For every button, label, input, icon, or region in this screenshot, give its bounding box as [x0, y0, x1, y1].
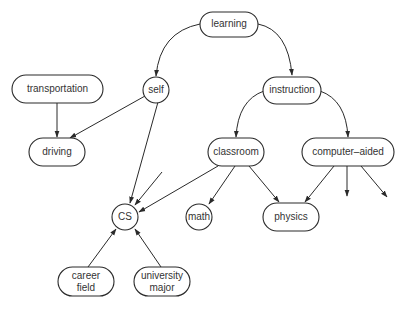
edge-self-cs [130, 102, 158, 203]
edge-university-major-cs [135, 229, 161, 267]
edge-instruction-classroom [236, 91, 264, 137]
node-self: self [143, 77, 169, 103]
node-label: self [148, 84, 164, 95]
node-computer-aided: computer–aided [302, 138, 394, 166]
node-university-major: university major [134, 267, 190, 296]
node-driving: driving [29, 138, 85, 166]
edge-learning-self [156, 24, 200, 76]
node-label: math [188, 211, 210, 222]
node-instruction: instruction [263, 77, 321, 104]
node-label-line2: major [149, 282, 175, 293]
edge-learning-instruction [258, 24, 292, 75]
node-label: instruction [269, 84, 315, 95]
node-learning: learning [200, 12, 258, 37]
node-label: physics [274, 211, 307, 222]
edge-computer-aided-physics [305, 166, 334, 202]
edge-dangling-cs [135, 172, 162, 205]
node-career-field: career field [58, 267, 114, 296]
edge-career-field-cs [88, 229, 116, 267]
node-label-line2: field [77, 282, 95, 293]
node-label: CS [118, 211, 132, 222]
node-math: math [186, 204, 212, 230]
edge-classroom-physics [249, 166, 279, 202]
node-label-line1: career [72, 270, 101, 281]
edge-computer-aided-dangling-2 [361, 166, 387, 197]
node-label: transportation [27, 83, 88, 94]
concept-diagram: learning self instruction transportation… [0, 0, 402, 310]
node-label-line1: university [141, 270, 183, 281]
node-transportation: transportation [12, 75, 103, 103]
edge-classroom-math [209, 166, 235, 204]
edge-instruction-computer-aided [320, 91, 348, 137]
node-label: computer–aided [312, 146, 384, 157]
node-label: classroom [213, 146, 259, 157]
node-label: driving [42, 146, 71, 157]
node-cs: CS [112, 204, 138, 230]
edge-classroom-cs [139, 166, 218, 212]
node-classroom: classroom [208, 138, 264, 166]
node-physics: physics [263, 203, 319, 231]
node-label: learning [211, 18, 247, 29]
